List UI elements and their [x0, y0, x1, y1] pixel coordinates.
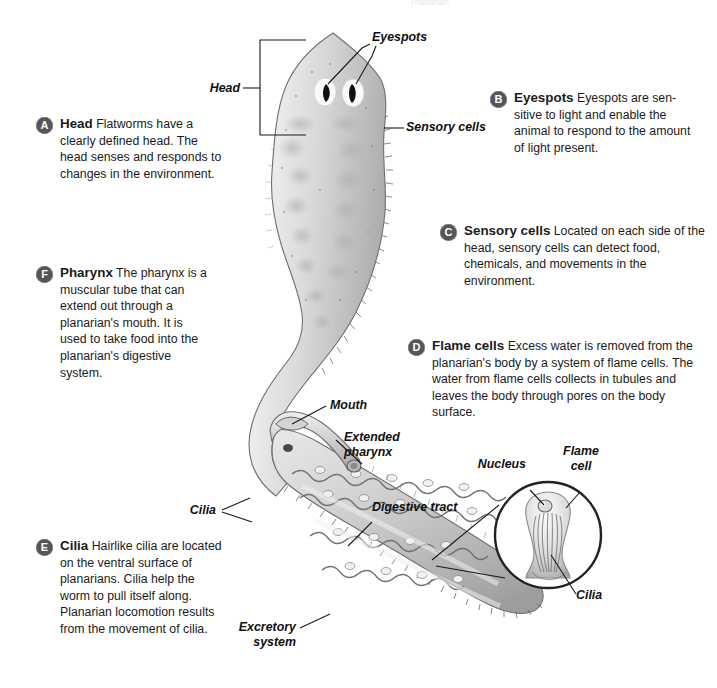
callout-e-term: Cilia	[60, 538, 88, 553]
label-flame-cell: Flame cell	[556, 444, 606, 473]
cilia-body-leader	[222, 498, 250, 510]
callout-a-head: A Head Flatworms have a clearly defined …	[36, 116, 226, 182]
callout-b-term: Eyespots	[514, 90, 574, 105]
callout-e-body: Cilia Hairlike cilia are located on the …	[60, 538, 222, 638]
callout-badge-c: C	[440, 224, 457, 241]
label-mouth: Mouth	[330, 398, 390, 413]
pore	[283, 444, 293, 452]
callout-badge-a: A	[36, 117, 53, 134]
label-extended-pharynx: Extended pharynx	[344, 430, 424, 459]
callout-badge-e: E	[36, 539, 53, 556]
label-nucleus: Nucleus	[460, 457, 526, 472]
callout-a-term: Head	[60, 116, 93, 131]
label-cilia-inset: Cilia	[576, 588, 626, 603]
pharynx-opening-inner	[350, 463, 357, 469]
callout-badge-b: B	[490, 91, 507, 108]
callout-f-body: Pharynx The pharynx is a muscular tube t…	[60, 265, 208, 381]
callout-c-sensory-cells: C Sensory cells Located on each side of …	[440, 223, 705, 289]
label-digestive-tract: Digestive tract	[372, 500, 482, 515]
callout-badge-f: F	[36, 266, 53, 283]
callout-f-text: The pharynx is a muscular tube that can …	[60, 266, 207, 380]
flame-cell-nucleus	[538, 500, 552, 512]
label-head: Head	[174, 81, 240, 96]
callout-c-body: Sensory cells Located on each side of th…	[464, 223, 705, 289]
callout-a-body: Head Flatworms have a clearly defined he…	[60, 116, 226, 182]
label-excretory-system: Excretory system	[212, 620, 296, 649]
callout-d-flame-cells: D Flame cells Excess water is removed fr…	[408, 338, 705, 421]
label-eyespots: Eyespots	[372, 30, 452, 45]
callout-b-body: Eyespots Eyespots are sen-sitive to ligh…	[514, 90, 704, 156]
callout-f-pharynx: F Pharynx The pharynx is a muscular tube…	[36, 265, 208, 381]
callout-f-term: Pharynx	[60, 265, 113, 280]
callout-e-cilia: E Cilia Hairlike cilia are located on th…	[36, 538, 222, 638]
callout-e-text: Hairlike cilia are located on the ventra…	[60, 539, 222, 636]
excretory-leader	[300, 614, 330, 628]
cilia-body-leader2	[222, 512, 252, 522]
callout-b-eyespots: B Eyespots Eyespots are sen-sitive to li…	[490, 90, 704, 156]
callout-badge-d: D	[408, 339, 425, 356]
label-cilia-body: Cilia	[156, 503, 216, 518]
callout-d-body: Flame cells Excess water is removed from…	[432, 338, 705, 421]
figure-canvas: Planarian	[0, 0, 717, 688]
callout-c-term: Sensory cells	[464, 223, 550, 238]
callout-d-term: Flame cells	[432, 338, 504, 353]
